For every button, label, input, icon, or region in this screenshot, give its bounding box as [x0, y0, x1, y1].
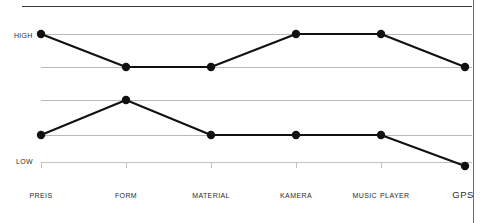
line-chart: High Low Preis Form Material Kamera Musi… — [0, 0, 482, 223]
data-point — [292, 131, 300, 139]
data-point — [37, 30, 45, 38]
category-label-kamera: Kamera — [280, 189, 312, 200]
data-point — [207, 63, 215, 71]
series-line-lower — [41, 100, 465, 166]
category-label-preis: Preis — [29, 189, 52, 200]
data-point — [122, 96, 130, 104]
series-layer — [0, 0, 482, 223]
data-point — [461, 63, 469, 71]
category-label-gps: GPS — [452, 189, 473, 200]
axis-label-high: High — [14, 29, 33, 40]
data-point — [207, 131, 215, 139]
data-point — [37, 131, 45, 139]
category-label-music-player: Music Player — [352, 189, 409, 200]
series-line-upper — [41, 34, 465, 67]
data-point — [292, 30, 300, 38]
series-markers-lower — [37, 96, 469, 170]
plot-area — [0, 0, 482, 223]
data-point — [377, 131, 385, 139]
data-point — [377, 30, 385, 38]
category-label-form: Form — [115, 189, 137, 200]
data-point — [461, 162, 469, 170]
data-point — [122, 63, 130, 71]
right-border-rule — [473, 0, 474, 223]
axis-label-low: Low — [16, 155, 33, 166]
category-label-material: Material — [192, 189, 230, 200]
